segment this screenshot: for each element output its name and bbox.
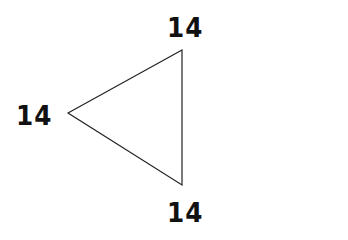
triangle-outline (68, 50, 182, 185)
left-vertex-label: 14 (16, 103, 52, 129)
triangle-diagram: 14 14 14 (0, 0, 348, 240)
top-vertex-label: 14 (167, 15, 203, 41)
bottom-vertex-label: 14 (167, 200, 203, 226)
